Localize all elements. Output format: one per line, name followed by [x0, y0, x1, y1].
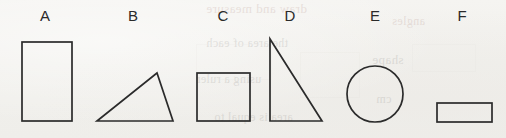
shapes-canvas: [0, 0, 506, 138]
shapes-figure: draw and measure angles the area of each…: [0, 0, 506, 138]
shape-f-rectangle: [437, 103, 492, 122]
shape-c-square: [197, 73, 250, 121]
shape-d-right-triangle: [270, 39, 322, 121]
shape-e-circle: [347, 66, 403, 122]
shape-a-rectangle: [22, 42, 72, 121]
shape-b-triangle: [97, 73, 173, 121]
